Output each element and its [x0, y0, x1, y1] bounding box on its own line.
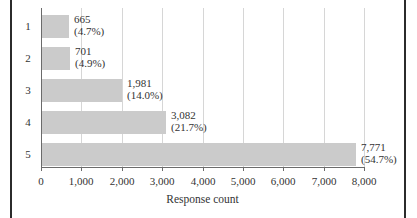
bar-value-label: 665: [74, 14, 104, 26]
category-label-2: 2: [21, 52, 35, 64]
x-tick-2,000: [122, 168, 123, 171]
bar-value-label: 1,981: [127, 78, 163, 90]
bar-value-label: 7,771: [361, 142, 397, 154]
x-tick-4,000: [203, 168, 204, 171]
bar-category-4: [42, 111, 166, 134]
x-tick-label-1,000: 1,000: [59, 175, 103, 187]
bar-data-label-2: 701(4.9%): [75, 46, 105, 69]
bar-value-label: 701: [75, 46, 105, 58]
bar-category-5: [42, 143, 356, 166]
x-tick-5,000: [243, 168, 244, 171]
x-tick-8,000: [364, 168, 365, 171]
x-axis-title: Response count: [41, 193, 364, 205]
x-tick-6,000: [283, 168, 284, 171]
x-tick-label-5,000: 5,000: [221, 175, 265, 187]
x-tick-0: [41, 168, 42, 171]
bar-percent-label: (14.0%): [127, 90, 163, 102]
bar-category-2: [42, 47, 70, 70]
y-axis-line: [41, 8, 42, 168]
bar-data-label-3: 1,981(14.0%): [127, 78, 163, 101]
category-label-4: 4: [21, 116, 35, 128]
category-label-5: 5: [21, 148, 35, 160]
x-tick-label-4,000: 4,000: [181, 175, 225, 187]
bar-percent-label: (54.7%): [361, 154, 397, 166]
x-tick-7,000: [324, 168, 325, 171]
page-border-left: [10, 0, 12, 218]
bar-value-label: 3,082: [171, 110, 207, 122]
bar-category-3: [42, 79, 122, 102]
bar-data-label-4: 3,082(21.7%): [171, 110, 207, 133]
bar-data-label-1: 665(4.7%): [74, 14, 104, 37]
category-label-3: 3: [21, 84, 35, 96]
figure-page: 01,0002,0003,0004,0005,0006,0007,0008,00…: [0, 0, 417, 218]
x-tick-label-8,000: 8,000: [342, 175, 386, 187]
category-label-1: 1: [21, 20, 35, 32]
x-tick-label-3,000: 3,000: [140, 175, 184, 187]
bar-percent-label: (21.7%): [171, 122, 207, 134]
bar-percent-label: (4.9%): [75, 58, 105, 70]
x-tick-label-7,000: 7,000: [302, 175, 346, 187]
bar-category-1: [42, 15, 69, 38]
x-tick-3,000: [162, 168, 163, 171]
bar-percent-label: (4.7%): [74, 26, 104, 38]
x-tick-label-6,000: 6,000: [261, 175, 305, 187]
x-tick-label-2,000: 2,000: [100, 175, 144, 187]
x-tick-1,000: [81, 168, 82, 171]
bar-data-label-5: 7,771(54.7%): [361, 142, 397, 165]
x-tick-label-0: 0: [19, 175, 63, 187]
plot-area: 01,0002,0003,0004,0005,0006,0007,0008,00…: [41, 8, 364, 168]
page-border-right: [404, 0, 406, 218]
